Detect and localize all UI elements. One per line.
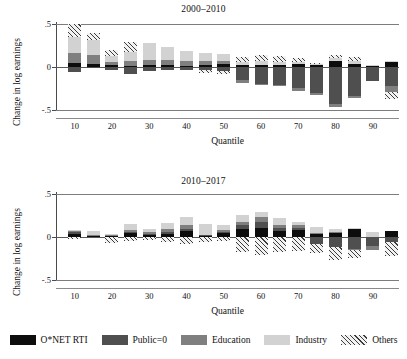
bar-segment-ind bbox=[161, 223, 174, 229]
y-tick-label: .5 bbox=[45, 19, 51, 29]
bar-quantile-70[interactable] bbox=[292, 24, 305, 110]
bar-quantile-35[interactable] bbox=[161, 24, 174, 110]
bar-quantile-90[interactable] bbox=[366, 24, 379, 110]
bar-segment-oth bbox=[348, 57, 361, 62]
legend-item-oth[interactable]: Others bbox=[341, 335, 397, 345]
legend-swatch-public bbox=[102, 335, 128, 345]
y-tick-label: .5 bbox=[45, 189, 51, 199]
bar-segment-public bbox=[255, 222, 268, 228]
bar-quantile-75[interactable] bbox=[310, 24, 323, 110]
bar-quantile-70[interactable] bbox=[292, 194, 305, 280]
bar-quantile-10[interactable] bbox=[68, 24, 81, 110]
x-tick-label-90: 90 bbox=[369, 121, 378, 131]
bar-quantile-65[interactable] bbox=[273, 24, 286, 110]
bar-quantile-60[interactable] bbox=[255, 194, 268, 280]
bar-quantile-95[interactable] bbox=[385, 194, 398, 280]
bar-quantile-15[interactable] bbox=[87, 24, 100, 110]
bar-quantile-90[interactable] bbox=[366, 194, 379, 280]
bar-quantile-95[interactable] bbox=[385, 24, 398, 110]
bar-segment-edu bbox=[217, 61, 230, 64]
bar-segment-public bbox=[366, 237, 379, 246]
bar-segment-oth bbox=[292, 237, 305, 251]
chart-panel-2010-2017: 2010–2017 Change in log earnings .50-.51… bbox=[0, 172, 407, 327]
bar-segment-public bbox=[385, 67, 398, 86]
bar-segment-ind bbox=[366, 65, 379, 66]
bar-quantile-45[interactable] bbox=[199, 24, 212, 110]
bar-quantile-50[interactable] bbox=[217, 24, 230, 110]
bar-quantile-85[interactable] bbox=[348, 194, 361, 280]
bar-segment-edu bbox=[292, 225, 305, 227]
legend-item-rti[interactable]: O*NET RTI bbox=[10, 335, 88, 345]
bar-segment-edu bbox=[366, 246, 379, 250]
bar-quantile-50[interactable] bbox=[217, 194, 230, 280]
bar-segment-ind bbox=[385, 61, 398, 63]
x-axis-label-top: Quantile bbox=[56, 136, 399, 146]
bar-segment-edu bbox=[236, 222, 249, 225]
bar-segment-ind bbox=[143, 43, 156, 60]
panel-title-top: 2000–2010 bbox=[0, 4, 407, 14]
y-tick-mark bbox=[52, 237, 56, 238]
bar-segment-oth bbox=[68, 237, 81, 239]
legend-item-public[interactable]: Public=0 bbox=[102, 335, 167, 345]
bar-quantile-75[interactable] bbox=[310, 194, 323, 280]
x-tick-label-60: 60 bbox=[257, 121, 266, 131]
x-tick-label-20: 20 bbox=[108, 121, 117, 131]
bar-segment-public bbox=[143, 67, 156, 71]
legend-swatch-ind bbox=[264, 335, 290, 345]
bar-quantile-60[interactable] bbox=[255, 24, 268, 110]
bar-segment-edu bbox=[87, 235, 100, 236]
bar-segment-ind bbox=[255, 212, 268, 217]
bar-quantile-45[interactable] bbox=[199, 194, 212, 280]
bar-segment-oth bbox=[273, 237, 286, 252]
bar-quantile-25[interactable] bbox=[124, 194, 137, 280]
bar-quantile-20[interactable] bbox=[105, 24, 118, 110]
bar-quantile-30[interactable] bbox=[143, 24, 156, 110]
bar-segment-ind bbox=[236, 62, 249, 65]
bar-quantile-15[interactable] bbox=[87, 194, 100, 280]
bar-segment-ind bbox=[180, 217, 193, 225]
bar-quantile-55[interactable] bbox=[236, 194, 249, 280]
bar-segment-public bbox=[68, 67, 81, 72]
legend-label-rti: O*NET RTI bbox=[41, 335, 88, 345]
gridline-y--.5 bbox=[56, 280, 399, 281]
bar-segment-public bbox=[143, 234, 156, 235]
x-tick-label-60: 60 bbox=[257, 291, 266, 301]
bar-segment-edu bbox=[68, 53, 81, 63]
legend-item-edu[interactable]: Education bbox=[181, 335, 251, 345]
bar-quantile-85[interactable] bbox=[348, 24, 361, 110]
bar-segment-public bbox=[366, 67, 379, 81]
bar-quantile-25[interactable] bbox=[124, 24, 137, 110]
bar-segment-edu bbox=[273, 225, 286, 228]
legend-swatch-oth bbox=[341, 335, 367, 345]
bar-segment-edu bbox=[124, 230, 137, 232]
bar-quantile-40[interactable] bbox=[180, 24, 193, 110]
bar-segment-edu bbox=[180, 225, 193, 229]
bar-quantile-80[interactable] bbox=[329, 24, 342, 110]
bar-segment-oth bbox=[255, 237, 268, 255]
bar-segment-edu bbox=[236, 80, 249, 83]
bar-segment-public bbox=[236, 225, 249, 229]
bar-segment-ind bbox=[329, 229, 342, 232]
bar-segment-oth bbox=[217, 237, 230, 241]
bar-quantile-80[interactable] bbox=[329, 194, 342, 280]
x-tick-label-10: 10 bbox=[70, 291, 79, 301]
bar-quantile-40[interactable] bbox=[180, 194, 193, 280]
y-axis-line-bottom bbox=[56, 192, 57, 280]
bar-segment-ind bbox=[310, 227, 323, 233]
bar-segment-edu bbox=[180, 61, 193, 66]
plot-area-bottom: .50-.5102030405060708090 bbox=[56, 194, 399, 280]
bar-quantile-10[interactable] bbox=[68, 194, 81, 280]
x-tick-label-40: 40 bbox=[182, 291, 191, 301]
x-tick-label-50: 50 bbox=[220, 121, 229, 131]
bar-quantile-55[interactable] bbox=[236, 24, 249, 110]
legend-item-ind[interactable]: Industry bbox=[264, 335, 327, 345]
bar-quantile-65[interactable] bbox=[273, 194, 286, 280]
bar-segment-ind bbox=[199, 53, 212, 61]
bar-quantile-30[interactable] bbox=[143, 194, 156, 280]
x-tick-label-90: 90 bbox=[369, 291, 378, 301]
bar-quantile-35[interactable] bbox=[161, 194, 174, 280]
bar-segment-public bbox=[105, 67, 118, 70]
bar-segment-ind bbox=[348, 228, 361, 230]
figure-quantile-decomposition: 2000–2010 Change in log earnings .50-.51… bbox=[0, 0, 407, 359]
bar-quantile-20[interactable] bbox=[105, 194, 118, 280]
